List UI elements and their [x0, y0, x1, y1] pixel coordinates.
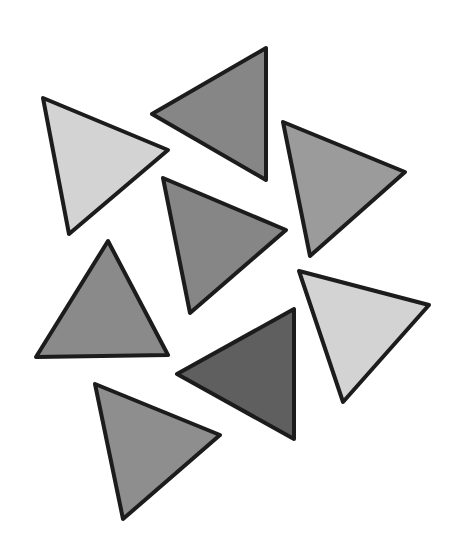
triangle-canvas	[0, 0, 453, 560]
